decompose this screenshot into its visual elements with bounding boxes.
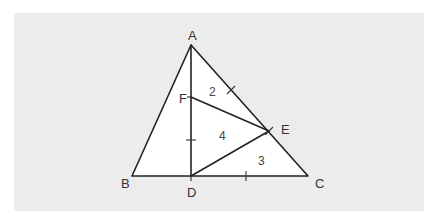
vertex-label-f: F bbox=[179, 91, 187, 106]
area-label-afe: 2 bbox=[209, 85, 216, 99]
vertex-label-e: E bbox=[281, 122, 290, 137]
vertex-label-c: C bbox=[315, 176, 324, 191]
area-label-edc: 3 bbox=[258, 154, 265, 168]
vertex-label-b: B bbox=[121, 176, 130, 191]
vertex-label-a: A bbox=[188, 28, 197, 43]
vertex-label-d: D bbox=[187, 185, 196, 200]
area-label-fde: 4 bbox=[219, 129, 226, 143]
geometry-diagram: A B C D E F 2 4 3 bbox=[0, 0, 435, 221]
